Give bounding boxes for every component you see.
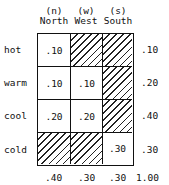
col-total-south: .30 bbox=[109, 172, 126, 183]
row-label-warm: warm bbox=[4, 77, 27, 88]
cell-cold-south: .30 bbox=[103, 133, 132, 164]
cell-warm-south-hatched bbox=[103, 67, 132, 100]
cell-hot-north: .10 bbox=[38, 34, 71, 67]
cell-cool-north: .20 bbox=[38, 100, 71, 133]
cell-warm-west: .10 bbox=[71, 67, 103, 100]
row-total-warm: .20 bbox=[141, 77, 158, 88]
row-total-hot: .10 bbox=[141, 44, 158, 55]
col-label: South bbox=[101, 16, 135, 26]
row-total-cold: .30 bbox=[141, 144, 158, 155]
cell-cold-west-hatched bbox=[71, 133, 103, 164]
cell-warm-north: .10 bbox=[38, 67, 71, 100]
col-label: West bbox=[69, 16, 103, 26]
probability-grid: .10 .10 .10 .20 .20 .30 bbox=[37, 33, 134, 166]
row-total-cool: .40 bbox=[141, 110, 158, 121]
cell-hot-south-hatched bbox=[103, 34, 132, 67]
cell-cold-north-hatched bbox=[38, 133, 71, 164]
col-total-west: .30 bbox=[78, 172, 95, 183]
col-total-north: .40 bbox=[45, 172, 62, 183]
col-header-west: (w) West bbox=[69, 6, 103, 26]
col-header-north: (n) North bbox=[37, 6, 71, 26]
row-label-hot: hot bbox=[4, 44, 21, 55]
cell-cool-west: .20 bbox=[71, 100, 103, 133]
cell-hot-west-hatched bbox=[71, 34, 103, 67]
row-label-cool: cool bbox=[4, 110, 27, 121]
col-header-south: (s) South bbox=[101, 6, 135, 26]
col-label: North bbox=[37, 16, 71, 26]
row-label-cold: cold bbox=[4, 144, 27, 155]
cell-cool-south-hatched bbox=[103, 100, 132, 133]
grand-total: 1.00 bbox=[136, 172, 159, 183]
